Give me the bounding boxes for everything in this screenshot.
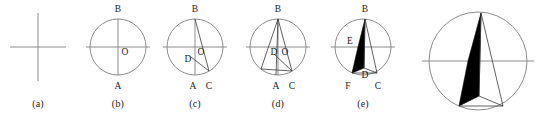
construction-diagram-svg: B O A B O D A C B O (0, 0, 544, 119)
panel-c-label-B: B (192, 4, 198, 14)
figure-board: B O A B O D A C B O (0, 0, 544, 119)
panel-d-label-C: C (289, 81, 295, 91)
panel-e-label-F: F (345, 81, 350, 91)
panel-c-group: B O D A C (163, 4, 227, 91)
caption-d: (d) (272, 98, 284, 110)
panel-e-group: B E D F C (331, 4, 395, 91)
final-figure-filled-sliver (459, 13, 481, 106)
panel-c-chord-B-C (195, 19, 209, 71)
panel-c-label-D: D (185, 54, 192, 64)
final-figure-chord-apex-to-right (481, 13, 503, 106)
panel-d-label-A: A (273, 81, 280, 91)
panel-c-label-C: C (206, 81, 212, 91)
panel-b-label-O: O (122, 47, 129, 57)
panel-e-label-D: D (362, 70, 369, 80)
panel-c-segment-D-C (191, 57, 209, 71)
panel-e-filled-sliver-BEFD (352, 19, 365, 73)
final-figure-segment-notch-to-right (479, 96, 503, 106)
panel-d-label-O: O (282, 47, 289, 57)
caption-e: (e) (357, 98, 369, 110)
panel-b-group: B O A (86, 4, 150, 91)
caption-c: (c) (189, 98, 201, 110)
panel-e-label-E: E (347, 36, 353, 46)
panel-b-label-B: B (115, 4, 121, 14)
panel-d-group: B O D A C (246, 4, 310, 91)
panel-d-label-B: B (275, 4, 281, 14)
panel-e-chord-B-C (365, 19, 377, 73)
panel-e-label-C: C (375, 81, 381, 91)
captions-group: (a) (b) (c) (d) (e) (32, 98, 369, 110)
panel-b-label-A: A (115, 81, 122, 91)
panel-a-group (10, 13, 66, 81)
panel-d-chord-B-F (261, 19, 278, 69)
panel-c-label-O: O (198, 47, 205, 57)
panel-d-label-D: D (271, 47, 278, 57)
panel-d-chord-B-C (278, 19, 292, 71)
final-figure-group (422, 12, 534, 110)
caption-a: (a) (32, 98, 44, 110)
caption-b: (b) (112, 98, 124, 110)
panel-e-label-B: B (362, 4, 368, 14)
panel-c-label-A: A (190, 81, 197, 91)
